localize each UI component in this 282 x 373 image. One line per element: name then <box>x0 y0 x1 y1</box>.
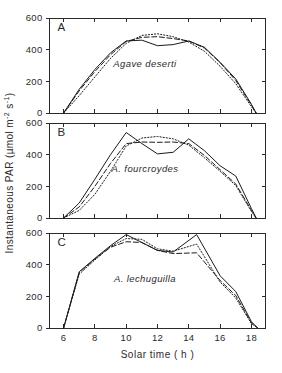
y-tick-label: 600 <box>26 227 43 238</box>
x-tick-label: 18 <box>246 332 257 343</box>
y-tick-label: 200 <box>26 291 43 302</box>
y-axis-label-main: Instantaneous PAR (µmol m <box>4 119 15 254</box>
panel-label-a: A <box>58 21 66 33</box>
panel-label-c: C <box>58 236 66 248</box>
figure-canvas: 0200400600AAgave deserti0200400600BA. fo… <box>0 0 282 373</box>
x-tick-label: 10 <box>121 332 132 343</box>
y-axis-label-superscript-1: -2 <box>3 112 10 119</box>
y-tick-label: 600 <box>26 12 43 23</box>
y-axis-label-end: ) <box>4 93 15 97</box>
y-tick-label: 0 <box>37 322 43 333</box>
x-tick-label: 14 <box>183 332 194 343</box>
x-tick-label: 6 <box>61 332 67 343</box>
y-tick-label: 400 <box>26 259 43 270</box>
y-tick-label: 0 <box>37 212 43 223</box>
y-tick-label: 600 <box>26 117 43 128</box>
y-tick-label: 200 <box>26 181 43 192</box>
par-figure: 0200400600AAgave deserti0200400600BA. fo… <box>0 0 282 373</box>
y-axis-label-mid: s <box>4 103 15 112</box>
species-annotation: Agave deserti <box>112 58 177 69</box>
x-tick-label: 8 <box>92 332 98 343</box>
x-tick-label: 16 <box>215 332 226 343</box>
species-annotation: A. lechuguilla <box>113 273 176 284</box>
x-axis-label: Solar time ( h ) <box>121 349 195 360</box>
y-tick-label: 400 <box>26 149 43 160</box>
y-axis-label-superscript-2: -1 <box>3 96 10 103</box>
species-annotation: A. fourcroydes <box>111 163 179 174</box>
y-tick-label: 200 <box>26 76 43 87</box>
x-tick-label: 12 <box>152 332 163 343</box>
panel-label-b: B <box>58 126 66 138</box>
y-tick-label: 400 <box>26 44 43 55</box>
